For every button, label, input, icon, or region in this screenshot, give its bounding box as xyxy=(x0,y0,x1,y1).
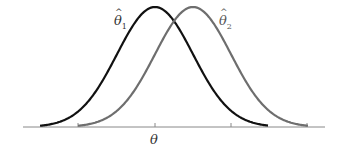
label-sub: 1 xyxy=(122,22,127,31)
theta2-hat-label: ^θ2 xyxy=(219,14,232,31)
hat-mark: ^ xyxy=(220,8,228,17)
label-sub: 2 xyxy=(227,22,232,31)
hat-mark: ^ xyxy=(115,8,123,17)
axis-theta-label: θ xyxy=(150,133,158,146)
estimator-distributions-diagram xyxy=(0,0,344,148)
theta1-hat-label: ^θ1 xyxy=(114,14,127,31)
axis-ticks xyxy=(78,123,307,127)
theta2-hat-curve xyxy=(78,7,308,126)
theta1-hat-curve xyxy=(40,7,268,126)
